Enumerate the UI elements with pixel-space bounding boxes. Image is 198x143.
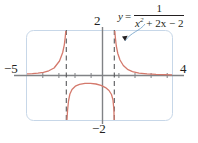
equation-lhs: y — [118, 10, 123, 22]
denominator-exponent: 2 — [140, 16, 144, 24]
figure-container: y = 1 x2 + 2x − 2 −5 4 2 −2 — [0, 0, 198, 143]
x-max-label: 4 — [180, 62, 187, 75]
equation-denominator: x2 + 2x − 2 — [134, 16, 184, 29]
equation-equals: = — [125, 10, 131, 22]
denominator-rest: + 2x − 2 — [146, 17, 183, 29]
equation-numerator: 1 — [155, 3, 165, 15]
y-min-label: −2 — [92, 122, 106, 135]
x-min-label: −5 — [4, 62, 18, 75]
y-max-label: 2 — [94, 14, 101, 27]
equation-fraction: 1 x2 + 2x − 2 — [134, 3, 184, 29]
equation-label: y = 1 x2 + 2x − 2 — [118, 3, 184, 29]
